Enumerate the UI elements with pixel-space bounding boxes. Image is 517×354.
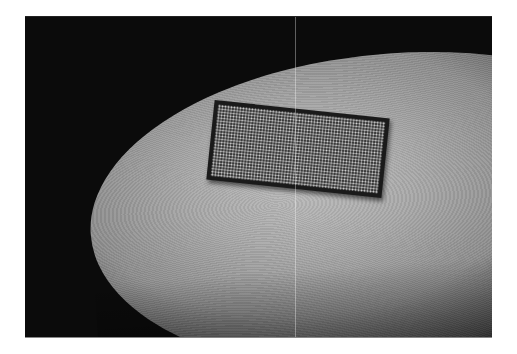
- chip-dot-grid: [211, 104, 386, 193]
- scan-artifact-line: [295, 17, 296, 337]
- photo: [25, 16, 492, 338]
